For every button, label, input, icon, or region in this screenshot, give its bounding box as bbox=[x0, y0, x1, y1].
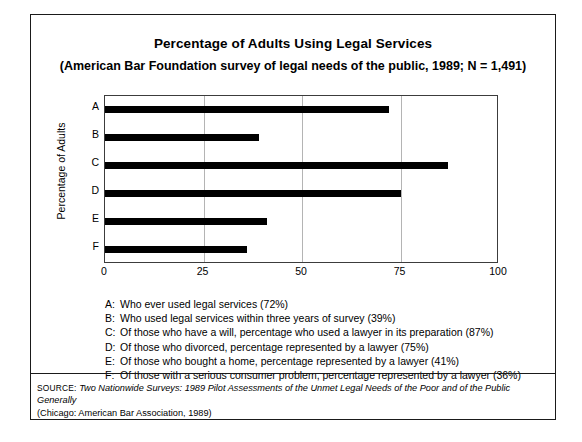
key-item: E:Of those who bought a home, percentage… bbox=[105, 354, 545, 368]
bar-E bbox=[105, 218, 267, 225]
key-item-text: Of those who divorced, percentage repres… bbox=[120, 341, 429, 353]
bar-B bbox=[105, 134, 259, 141]
x-tick-label-75: 75 bbox=[394, 265, 406, 277]
page-title: Percentage of Adults Using Legal Service… bbox=[31, 35, 555, 53]
bar-row: D bbox=[105, 180, 497, 208]
key-item: B:Who used legal services within three y… bbox=[105, 311, 545, 325]
bar-row: C bbox=[105, 152, 497, 180]
chart-key: A:Who ever used legal services (72%)B:Wh… bbox=[105, 297, 545, 382]
key-item-letter: F: bbox=[105, 368, 120, 382]
key-item-letter: C: bbox=[105, 325, 120, 339]
category-label-A: A bbox=[83, 100, 99, 112]
x-axis-ticks: 0255075100 bbox=[104, 265, 498, 281]
x-tick-label-0: 0 bbox=[101, 265, 107, 277]
title-block: Percentage of Adults Using Legal Service… bbox=[31, 35, 555, 75]
bar-F bbox=[105, 246, 247, 253]
key-item-text: Of those who have a will, percentage who… bbox=[120, 326, 494, 338]
bar-row: B bbox=[105, 124, 497, 152]
bar-D bbox=[105, 190, 401, 197]
key-item: A:Who ever used legal services (72%) bbox=[105, 297, 545, 311]
source-title: Two Nationwide Surveys: 1989 Pilot Asses… bbox=[37, 383, 510, 405]
source-divider bbox=[31, 373, 555, 374]
key-item-letter: A: bbox=[105, 297, 120, 311]
bar-row: F bbox=[105, 236, 497, 264]
key-item: C:Of those who have a will, percentage w… bbox=[105, 325, 545, 339]
figure-frame: Percentage of Adults Using Legal Service… bbox=[30, 14, 556, 420]
page-subtitle: (American Bar Foundation survey of legal… bbox=[31, 57, 555, 75]
key-item-letter: E: bbox=[105, 354, 120, 368]
category-label-F: F bbox=[83, 240, 99, 252]
source-publisher: (Chicago: American Bar Association, 1989… bbox=[37, 408, 212, 418]
key-item-text: Who ever used legal services (72%) bbox=[120, 298, 288, 310]
key-item-letter: B: bbox=[105, 311, 120, 325]
bar-chart: Percentage of Adults ABCDEF 0255075100 bbox=[31, 81, 557, 281]
x-tick-label-100: 100 bbox=[489, 265, 507, 277]
y-axis-label: Percentage of Adults bbox=[55, 101, 67, 241]
plot-area: ABCDEF bbox=[104, 95, 498, 263]
bar-C bbox=[105, 162, 448, 169]
category-label-B: B bbox=[83, 128, 99, 140]
category-label-D: D bbox=[83, 184, 99, 196]
bar-row: E bbox=[105, 208, 497, 236]
key-item-letter: D: bbox=[105, 340, 120, 354]
bar-A bbox=[105, 106, 389, 113]
bar-row: A bbox=[105, 96, 497, 124]
source-label: SOURCE: bbox=[37, 383, 77, 393]
category-label-C: C bbox=[83, 156, 99, 168]
category-label-E: E bbox=[83, 212, 99, 224]
x-tick-label-50: 50 bbox=[295, 265, 307, 277]
source-note: SOURCE: Two Nationwide Surveys: 1989 Pil… bbox=[37, 382, 547, 419]
bar-series: ABCDEF bbox=[105, 96, 497, 262]
x-tick-label-25: 25 bbox=[197, 265, 209, 277]
key-item: D:Of those who divorced, percentage repr… bbox=[105, 340, 545, 354]
key-item-text: Who used legal services within three yea… bbox=[120, 312, 395, 324]
key-item-text: Of those who bought a home, percentage r… bbox=[120, 355, 459, 367]
key-item: F:Of those with a serious consumer probl… bbox=[105, 368, 545, 382]
key-item-text: Of those with a serious consumer problem… bbox=[120, 369, 521, 381]
